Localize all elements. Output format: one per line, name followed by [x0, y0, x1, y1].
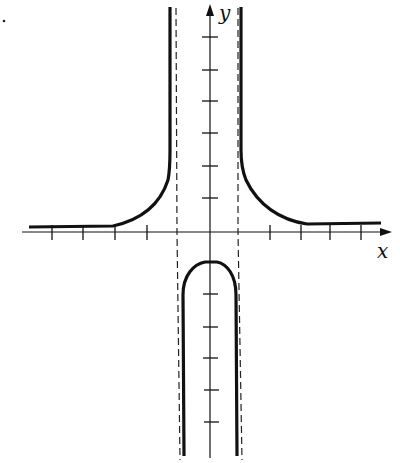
left-branch	[29, 7, 170, 227]
left-asymptote	[176, 8, 180, 460]
x-axis-label: x	[377, 239, 388, 263]
y-axis-label: y	[218, 1, 231, 25]
x-axis-arrow-icon	[380, 228, 392, 236]
function-graph: x y	[0, 0, 400, 463]
x-axis: x	[22, 225, 392, 263]
stray-dot	[3, 20, 6, 23]
y-axis: y	[202, 1, 231, 458]
y-axis-arrow-icon	[206, 4, 214, 16]
vertical-asymptotes	[176, 8, 242, 460]
right-branch	[241, 7, 381, 224]
